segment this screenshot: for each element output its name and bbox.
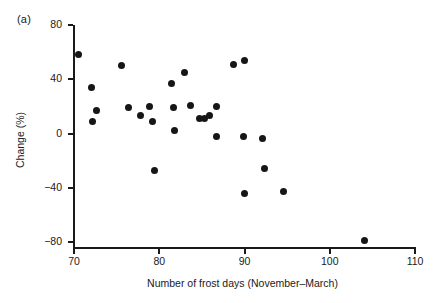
x-tick-label: 70 <box>54 255 94 267</box>
x-tick-label: 100 <box>310 255 350 267</box>
y-tick-label: −80 <box>20 235 62 247</box>
y-tick-mark <box>68 241 73 243</box>
data-point <box>213 103 220 110</box>
data-point <box>149 118 156 125</box>
data-point <box>168 80 175 87</box>
y-axis-title: Change (%) <box>14 112 26 168</box>
data-point <box>146 103 153 110</box>
y-tick-label: 80 <box>20 18 62 30</box>
y-tick-mark <box>68 78 73 80</box>
y-tick-label: 0 <box>20 127 62 139</box>
x-tick-mark <box>158 249 160 254</box>
x-tick-label: 80 <box>139 255 179 267</box>
y-tick-mark <box>68 187 73 189</box>
data-point <box>241 57 248 64</box>
y-tick-label: 40 <box>20 72 62 84</box>
x-tick-mark <box>244 249 246 254</box>
data-point <box>240 133 247 140</box>
data-point <box>213 133 220 140</box>
data-point <box>241 190 248 197</box>
data-point <box>89 118 96 125</box>
x-tick-mark <box>329 249 331 254</box>
y-tick-mark <box>68 133 73 135</box>
data-point <box>93 107 100 114</box>
data-point <box>151 167 158 174</box>
y-tick-mark <box>68 24 73 26</box>
data-point <box>187 102 194 109</box>
data-point <box>261 165 268 172</box>
x-tick-mark <box>73 249 75 254</box>
x-tick-label: 110 <box>395 255 435 267</box>
data-point <box>230 61 237 68</box>
x-tick-mark <box>414 249 416 254</box>
y-tick-label: −40 <box>20 181 62 193</box>
x-tick-label: 90 <box>225 255 265 267</box>
x-axis-title: Number of frost days (November–March) <box>22 277 441 289</box>
scatter-plot-figure: (a) 80400−40−80 708090100110 Change (%) … <box>0 0 441 303</box>
